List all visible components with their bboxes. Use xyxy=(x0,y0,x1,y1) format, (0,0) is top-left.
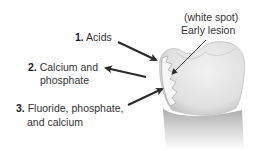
label-acids-number: 1. xyxy=(75,31,84,43)
label-fluoride-line2: and calcium xyxy=(27,116,83,129)
arrow-calcium-phosphate xyxy=(106,68,146,77)
lesion-label-line1: (white spot) xyxy=(184,11,238,24)
label-acids: 1. Acids xyxy=(75,31,112,44)
label-calcium-phosphate-line1: 2. Calcium and xyxy=(28,61,98,74)
label-fluoride-number: 3. xyxy=(16,102,25,114)
label-acids-text: Acids xyxy=(86,31,112,43)
arrow-acids xyxy=(118,42,156,60)
tooth-diagram: (white spot) Early lesion 1. Acids 2. Ca… xyxy=(0,0,258,151)
arrow-fluoride-phosphate-calcium xyxy=(128,89,162,105)
label-calcium-phosphate-number: 2. xyxy=(28,61,37,73)
label-calcium-phosphate-line2: phosphate xyxy=(40,74,89,87)
label-fluoride-text: Fluoride, phosphate, xyxy=(28,102,124,114)
lesion-label-line2: Early lesion xyxy=(181,24,235,37)
label-calcium-phosphate-text: Calcium and xyxy=(40,61,98,73)
label-fluoride-line1: 3. Fluoride, phosphate, xyxy=(16,102,123,115)
